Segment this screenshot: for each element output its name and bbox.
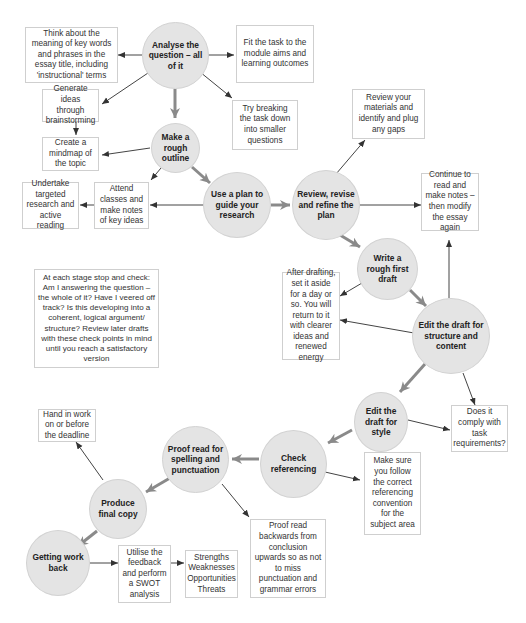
note-attend-classes: Attend classes and make notes of key ide… xyxy=(94,182,149,229)
step-analyse-question: Analyse the question – all of it xyxy=(142,22,209,89)
note-swot-terms: Strengths Weaknesses Opportunities Threa… xyxy=(185,550,238,598)
note-proof-backwards: Proof read backwards from conclusion upw… xyxy=(250,519,326,598)
step-proof-read: Proof read for spelling and punctuation xyxy=(162,426,229,493)
note-key-words: Think about the meaning of key words and… xyxy=(25,27,118,83)
note-swot-feedback: Utilise the feedback and perform a SWOT … xyxy=(118,545,171,603)
note-continue-reading: Continue to read and make notes – then m… xyxy=(421,173,479,231)
step-edit-style: Edit the draft for style xyxy=(354,392,408,452)
note-comply: Does it comply with task requirements? xyxy=(451,405,508,452)
step-use-plan: Use a plan to guide your research xyxy=(203,172,271,238)
step-getting-work-back: Getting work back xyxy=(26,530,90,596)
step-review-plan: Review, revise and refine the plan xyxy=(292,170,360,240)
note-referencing-convention: Make sure you follow the correct referen… xyxy=(364,452,421,535)
note-fit-module: Fit the task to the module aims and lear… xyxy=(236,25,314,83)
note-hand-in: Hand in work on or before the deadline xyxy=(38,409,96,442)
note-brainstorm: Generate ideas through brainstorming xyxy=(42,89,99,122)
step-edit-structure: Edit the draft for structure and content xyxy=(412,298,490,374)
step-final-copy: Produce final copy xyxy=(89,479,147,539)
note-set-aside: After drafting, set it aside for a day o… xyxy=(282,272,340,360)
step-first-draft: Write a rough first draft xyxy=(357,238,418,300)
note-review-materials: Review your materials and identify and p… xyxy=(352,89,425,139)
note-targeted-research: Undertake targeted research and active r… xyxy=(22,182,79,229)
note-break-down: Try breaking the task down into smaller … xyxy=(232,100,298,150)
step-rough-outline: Make a rough outline xyxy=(151,123,200,173)
note-mindmap: Create a mindmap of the topic xyxy=(42,137,99,171)
note-stage-check: At each stage stop and check: Am I answe… xyxy=(34,269,159,368)
step-check-referencing: Check referencing xyxy=(260,430,327,498)
